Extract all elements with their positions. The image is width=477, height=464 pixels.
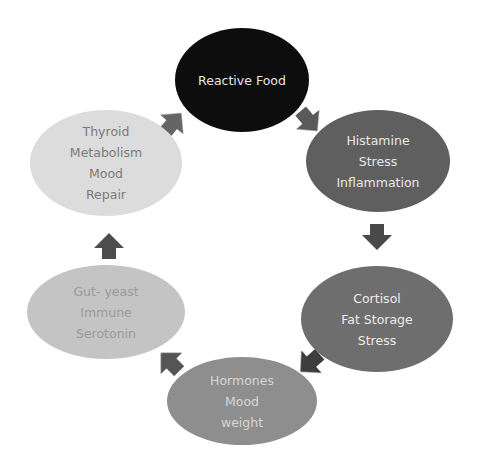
- node-label-line: Cortisol: [353, 291, 401, 306]
- node-label-line: Stress: [359, 154, 397, 169]
- node-label-line: Stress: [358, 333, 396, 348]
- node-label-line: Histamine: [346, 133, 410, 148]
- node-label-line: Immune: [80, 305, 132, 320]
- node-gut: Gut- yeastImmuneSerotonin: [27, 265, 185, 359]
- node-reactive-food: Reactive Food: [175, 28, 309, 132]
- node-label-line: Metabolism: [70, 145, 142, 160]
- arrow-icon-gut-to-thyroid: [94, 233, 124, 259]
- arrow-icon-histamine-to-cortisol: [362, 224, 392, 250]
- node-label-line: Inflammation: [336, 175, 419, 190]
- node-label-line: Mood: [89, 166, 123, 181]
- node-hormones: HormonesMoodweight: [167, 357, 317, 445]
- node-label-line: Fat Storage: [341, 312, 413, 327]
- node-label-line: Gut- yeast: [73, 284, 138, 299]
- node-thyroid: ThyroidMetabolismMoodRepair: [30, 110, 182, 216]
- node-label-line: Repair: [86, 187, 127, 202]
- node-label-line: Hormones: [210, 373, 274, 388]
- node-label-line: Mood: [225, 394, 259, 409]
- node-histamine: HistamineStressInflammation: [306, 110, 450, 212]
- node-label-line: weight: [221, 415, 263, 430]
- node-cortisol: CortisolFat StorageStress: [301, 266, 453, 372]
- node-label-line: Reactive Food: [198, 73, 286, 88]
- node-label-line: Serotonin: [76, 326, 136, 341]
- node-label-line: Thyroid: [82, 124, 130, 139]
- reactive-food-cycle-diagram: Reactive FoodHistamineStressInflammation…: [0, 0, 477, 464]
